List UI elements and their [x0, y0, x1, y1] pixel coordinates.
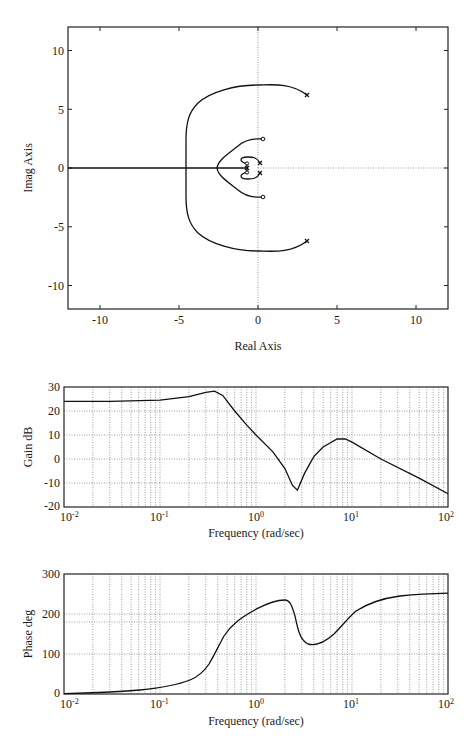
- gain-ytick: 30: [48, 380, 60, 394]
- rl-xtick: -10: [92, 313, 108, 327]
- root-locus-plot: -10 -5 0 5 10 10 5 0 -5 -10 Real Axis Im…: [21, 27, 448, 353]
- rl-xtick: 10: [410, 313, 422, 327]
- phase-ytick: 100: [42, 647, 60, 661]
- svg-text:10-2: 10-2: [60, 510, 79, 524]
- gain-xticks: 10-2 10-1 100 101 102: [60, 510, 454, 524]
- rl-ytick: 10: [52, 44, 64, 58]
- svg-text:10-1: 10-1: [150, 697, 169, 711]
- phase-ytick: 200: [42, 607, 60, 621]
- figure: -10 -5 0 5 10 10 5 0 -5 -10 Real Axis Im…: [0, 0, 473, 743]
- rl-ytick: -5: [54, 220, 64, 234]
- gain-xlabel: Frequency (rad/sec): [208, 526, 304, 540]
- phase-xticks: 10-2 10-1 100 101 102: [60, 697, 454, 711]
- gain-plot: 30 20 10 0 -10 -20 10-2 10-1 100 101 102…: [21, 380, 454, 540]
- rl-ytick: 0: [58, 161, 64, 175]
- svg-text:101: 101: [343, 697, 359, 711]
- gain-ytick: 10: [48, 428, 60, 442]
- gain-ylabel: Gain dB: [21, 427, 35, 467]
- svg-text:102: 102: [438, 697, 454, 711]
- svg-text:102: 102: [438, 510, 454, 524]
- phase-plot: 300 200 100 0 10-2 10-1 100 101 102 Freq…: [21, 567, 454, 728]
- gain-grid: [64, 387, 448, 507]
- phase-grid: [64, 574, 448, 694]
- gain-ytick: -10: [44, 476, 60, 490]
- rl-xtick: 0: [255, 313, 261, 327]
- zero-markers: [245, 137, 264, 199]
- svg-text:100: 100: [248, 697, 264, 711]
- rl-xlabel: Real Axis: [235, 339, 282, 353]
- rl-xtick: 5: [334, 313, 340, 327]
- svg-text:100: 100: [248, 510, 264, 524]
- rl-xtick: -5: [174, 313, 184, 327]
- svg-text:10-2: 10-2: [60, 697, 79, 711]
- pole-markers: [245, 93, 309, 243]
- rl-ytick: 5: [58, 103, 64, 117]
- gain-ytick: 0: [54, 452, 60, 466]
- rl-ytick: -10: [48, 279, 64, 293]
- svg-text:101: 101: [343, 510, 359, 524]
- phase-ylabel: Phase deg: [21, 610, 35, 658]
- phase-ytick: 300: [42, 567, 60, 581]
- rl-ylabel: Imag Axis: [21, 143, 35, 193]
- gain-ytick: 20: [48, 404, 60, 418]
- phase-xlabel: Frequency (rad/sec): [208, 714, 304, 728]
- gain-ytick: -20: [44, 499, 60, 513]
- svg-text:10-1: 10-1: [150, 510, 169, 524]
- phase-curve: [64, 593, 448, 693]
